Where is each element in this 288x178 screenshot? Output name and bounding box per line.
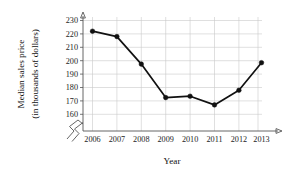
xtick-label-2012: 2012 (231, 135, 247, 144)
ytick-label-170: 170 (66, 97, 78, 106)
data-point-2009[interactable] (163, 95, 168, 100)
y-axis (81, 12, 86, 131)
ytick-label-220: 220 (66, 30, 78, 39)
x-axis (83, 129, 282, 134)
xtick-label-2007: 2007 (109, 135, 125, 144)
y-tick-labels: 230 220 210 200 190 180 170 160 (66, 16, 78, 119)
y-axis-title-line1: Median sales price (16, 40, 26, 109)
data-point-2013[interactable] (259, 60, 264, 65)
data-point-2012[interactable] (237, 88, 242, 93)
line-chart: 230 220 210 200 190 180 170 160 2006 200… (0, 0, 288, 178)
x-tick-labels: 2006 2007 2008 2009 2010 2011 2012 2013 (84, 135, 269, 144)
ytick-label-190: 190 (66, 70, 78, 79)
data-points (90, 29, 264, 107)
axis-break-symbol (67, 120, 83, 142)
x-axis-title: Year (164, 156, 181, 166)
ytick-label-200: 200 (66, 57, 78, 66)
xtick-label-2013: 2013 (253, 135, 269, 144)
xtick-label-2009: 2009 (158, 135, 174, 144)
xtick-label-2008: 2008 (133, 135, 149, 144)
xtick-label-2006: 2006 (84, 135, 100, 144)
ytick-label-160: 160 (66, 110, 78, 119)
data-point-2011[interactable] (212, 103, 217, 108)
data-series-line (93, 31, 262, 105)
data-point-2007[interactable] (115, 34, 120, 39)
y-axis-title-line2: (in thousands of dollars) (30, 29, 40, 119)
ytick-label-230: 230 (66, 16, 78, 25)
data-point-2010[interactable] (188, 94, 193, 99)
ytick-label-210: 210 (66, 43, 78, 52)
y-axis-title: Median sales price (in thousands of doll… (16, 29, 40, 119)
data-point-2008[interactable] (139, 62, 144, 67)
xtick-label-2011: 2011 (206, 135, 222, 144)
xtick-label-2010: 2010 (182, 135, 198, 144)
ytick-label-180: 180 (66, 83, 78, 92)
chart-figure: 230 220 210 200 190 180 170 160 2006 200… (0, 0, 288, 178)
data-point-2006[interactable] (90, 29, 95, 34)
